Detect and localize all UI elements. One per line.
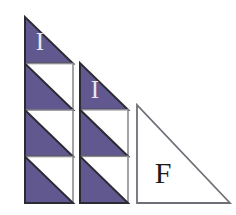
stepped-triangle-middle: I [80,63,128,203]
triangle-f-label: F [155,156,172,189]
left-column-cell-0-triangle [25,17,73,64]
large-white-triangle: F [137,105,230,203]
middle-column-label: I [91,76,99,103]
stepped-triangle-left: I [25,17,73,203]
geometry-figure: I I F [0,0,236,215]
triangle-f-outline [137,105,230,203]
figure-canvas: I I F [0,0,236,215]
left-column-label: I [36,28,44,55]
middle-column-cell-0-triangle [80,63,128,110]
